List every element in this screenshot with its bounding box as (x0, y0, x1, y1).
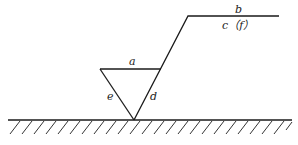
roughness-symbol-diagram: a b c（f） d e (0, 0, 298, 145)
label-c-f: c（f） (222, 19, 254, 32)
label-e: e (107, 90, 114, 103)
surface-hatching (10, 121, 292, 134)
label-a: a (129, 55, 136, 68)
symbol-long-leg (134, 16, 279, 120)
label-d: d (150, 90, 157, 103)
triangle-left-edge (100, 69, 134, 120)
label-b: b (235, 3, 242, 16)
